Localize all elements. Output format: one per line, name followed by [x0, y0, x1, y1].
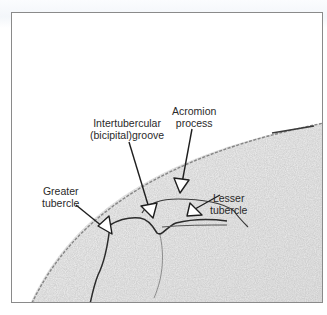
- acromion-process-label: Acromion process: [172, 105, 216, 129]
- greater-tubercle-label: Greater tubercle: [42, 185, 79, 209]
- figure-frame: Acromion process Intertubercular (bicipi…: [11, 12, 323, 303]
- anatomy-illustration: [12, 13, 323, 303]
- intertubercular-groove-label: Intertubercular (bicipital)groove: [90, 117, 164, 141]
- lesser-tubercle-label: Lesser tubercle: [210, 192, 247, 216]
